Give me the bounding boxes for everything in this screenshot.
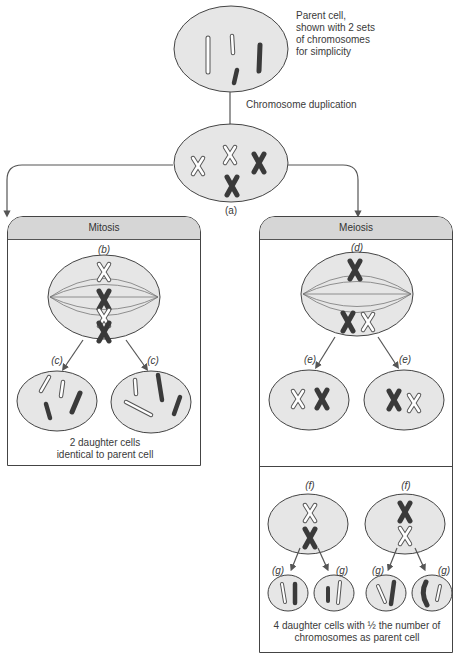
meiosis-panel: Meiosis (259, 216, 453, 653)
to-meiosis-arrow (288, 165, 358, 214)
mitosis-caption: 2 daughter cells identical to parent cel… (20, 437, 190, 461)
stage-b-label: (b) (92, 244, 116, 256)
caption-line: 4 daughter cells with ½ the number of (262, 620, 452, 632)
note-line: for simplicity (296, 46, 375, 58)
stage-g-label: (g) (366, 565, 390, 577)
meiosis-divider (260, 466, 452, 467)
stage-f-left-label: (f) (298, 480, 322, 492)
caption-line: 2 daughter cells (20, 437, 190, 449)
stage-e-left-label: (e) (298, 354, 322, 366)
mitosis-header: Mitosis (8, 217, 200, 240)
note-line: Parent cell, (296, 10, 375, 22)
stage-g-label: (g) (266, 565, 290, 577)
stage-a-label: (a) (218, 205, 244, 217)
to-mitosis-arrow (7, 165, 173, 214)
note-line: shown with 2 sets (296, 22, 375, 34)
duplicated-cell (174, 124, 288, 202)
duplication-label: Chromosome duplication (246, 99, 357, 111)
stage-f-right-label: (f) (394, 480, 418, 492)
stage-d-label: (d) (345, 242, 369, 254)
meiosis-header: Meiosis (260, 217, 452, 240)
caption-line: identical to parent cell (20, 449, 190, 461)
stage-g-label: (g) (432, 565, 456, 577)
stage-g-label: (g) (330, 565, 354, 577)
meiosis-caption: 4 daughter cells with ½ the number of ch… (262, 620, 452, 644)
parent-cell (174, 6, 288, 92)
stage-c-left-label: (c) (45, 355, 69, 367)
parent-cell-note: Parent cell, shown with 2 sets of chromo… (296, 10, 375, 58)
note-line: of chromosomes (296, 34, 375, 46)
caption-line: chromosomes as parent cell (262, 632, 452, 644)
stage-e-right-label: (e) (393, 354, 417, 366)
stage-c-right-label: (c) (141, 355, 165, 367)
